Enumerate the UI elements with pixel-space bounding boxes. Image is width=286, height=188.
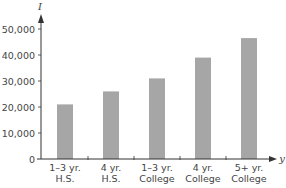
y-tick-label: 10,000 [2,128,35,139]
y-tick-label: 0 [29,154,35,165]
x-tick-label: 4 yr.H.S. [101,162,122,184]
y-tick-label: 40,000 [2,50,35,61]
y-tick-label: 30,000 [2,76,35,87]
x-tick-label: 1–3 yr.College [139,162,175,184]
x-axis-title: y [278,153,285,164]
bar [57,104,73,159]
y-axis-title: I [37,1,43,12]
bar [149,78,165,159]
x-tick-label: 1–3 yr.H.S. [49,162,81,184]
y-axis-arrow-icon [38,14,44,23]
y-tick-label: 50,000 [2,24,35,35]
bar [241,38,257,159]
bar [195,58,211,159]
bar [103,91,119,159]
bar-chart: 1–3 yr.H.S.4 yr.H.S.1–3 yr.College4 yr.C… [0,0,286,188]
x-tick-label: 5+ yr.College [231,162,267,184]
x-axis-arrow-icon [269,156,277,162]
x-tick-label: 4 yr.College [185,162,221,184]
y-tick-label: 20,000 [2,102,35,113]
